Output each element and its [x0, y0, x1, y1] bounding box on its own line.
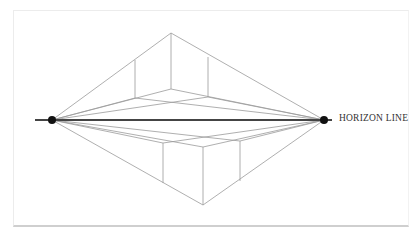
ray-left-vp-to-right-top — [52, 120, 240, 141]
right-vanishing-point — [320, 116, 328, 124]
ray-left-extension-lower — [52, 120, 163, 143]
left-vanishing-point — [48, 116, 56, 124]
ray-right-vp-to-bottom-apex — [203, 120, 324, 205]
ray-left-vp-to-right-bottom — [52, 97, 208, 120]
ray-right-vp-to-left-top — [163, 120, 324, 143]
ray-right-vp-to-near-top — [203, 120, 324, 147]
ray-left-vp-to-near-top — [52, 120, 203, 147]
upper-cube — [52, 33, 324, 120]
lower-cube — [52, 120, 324, 205]
ray-right-vp-to-top-apex — [171, 33, 324, 120]
ray-right-vp-extension — [52, 98, 135, 120]
ray-left-vp-to-top-apex — [52, 33, 171, 120]
horizon-line-label: HORIZON LINE — [339, 113, 408, 123]
ray-left-vp-to-bottom-apex — [52, 120, 203, 205]
